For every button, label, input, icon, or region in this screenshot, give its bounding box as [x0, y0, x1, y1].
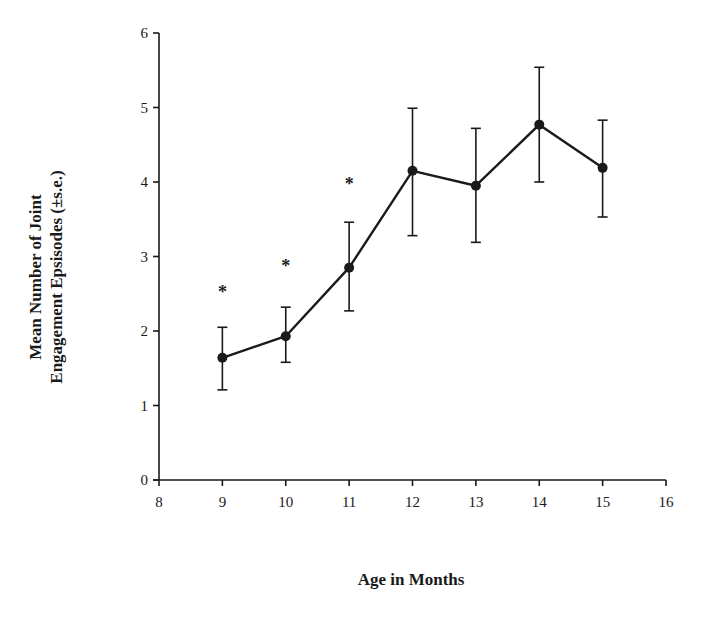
data-point-marker [534, 120, 544, 130]
y-axis-title-line-1: Mean Number of Joint [26, 194, 45, 360]
x-tick-label: 9 [219, 494, 227, 510]
data-point-marker [471, 181, 481, 191]
line-chart: 0123456 8910111213141516 *** Mean Number… [0, 0, 702, 618]
data-point-marker [217, 353, 227, 363]
y-tick-label: 5 [141, 100, 149, 116]
significance-annotations: *** [218, 174, 354, 302]
data-point-marker [408, 166, 418, 176]
error-bars [217, 67, 607, 390]
x-axis-title: Age in Months [358, 570, 465, 589]
x-tick-label: 10 [278, 494, 293, 510]
chart-canvas: 0123456 8910111213141516 *** Mean Number… [0, 0, 702, 618]
x-axis: 8910111213141516 [153, 480, 674, 510]
x-tick-label: 8 [155, 494, 163, 510]
x-tick-label: 15 [595, 494, 610, 510]
data-point-marker [344, 263, 354, 273]
y-axis-title-line-2: Engagement Epsisodes (±s.e.) [47, 170, 66, 383]
y-tick-label: 3 [141, 249, 149, 265]
y-tick-label: 1 [141, 398, 149, 414]
data-point-marker [281, 331, 291, 341]
significance-asterisk: * [281, 256, 290, 276]
x-tick-label: 13 [468, 494, 483, 510]
data-point-marker [598, 163, 608, 173]
y-tick-label: 6 [141, 25, 149, 41]
y-axis: 0123456 [141, 25, 160, 488]
significance-asterisk: * [218, 282, 227, 302]
x-tick-label: 14 [532, 494, 548, 510]
y-tick-label: 4 [141, 174, 149, 190]
x-tick-label: 11 [342, 494, 356, 510]
significance-asterisk: * [345, 174, 354, 194]
y-tick-label: 2 [141, 323, 149, 339]
x-tick-label: 12 [405, 494, 420, 510]
y-tick-label: 0 [141, 472, 149, 488]
x-tick-label: 16 [659, 494, 675, 510]
